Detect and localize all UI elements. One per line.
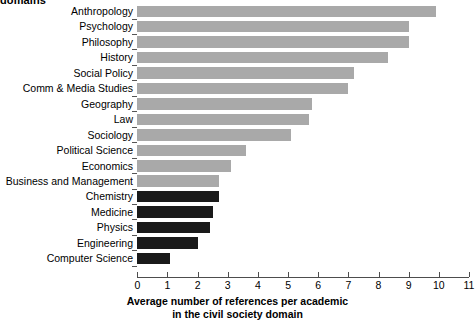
category-label: Business and Management [6, 174, 137, 189]
x-axis-tick-label: 11 [457, 279, 475, 291]
x-axis-title-line2: in the civil society domain [0, 308, 475, 321]
bar-row: Engineering [0, 236, 475, 251]
bar [137, 237, 197, 249]
bar-row: Computer Science [0, 251, 475, 266]
category-label: Geography [81, 97, 137, 112]
bar-row: Physics [0, 220, 475, 235]
category-label: Law [114, 112, 137, 127]
x-axis-tick [137, 272, 138, 277]
bar [137, 114, 309, 126]
x-axis-tick-label: 1 [155, 279, 179, 291]
bar [137, 98, 312, 110]
bar-row: Social Policy [0, 66, 475, 81]
x-axis-tick-label: 6 [306, 279, 330, 291]
bar-row: Chemistry [0, 189, 475, 204]
category-label: Psychology [79, 19, 137, 34]
bar [137, 67, 354, 79]
x-axis-line [137, 277, 469, 278]
bar [137, 52, 387, 64]
category-label: Engineering [77, 236, 137, 251]
bar [137, 129, 291, 141]
bar-row: Psychology [0, 19, 475, 34]
category-label: Social Policy [73, 66, 137, 81]
x-axis-tick-label: 5 [276, 279, 300, 291]
y-axis-tick [132, 266, 137, 267]
x-axis-tick-label: 4 [246, 279, 270, 291]
x-axis-tick [228, 272, 229, 277]
x-axis-tick [318, 272, 319, 277]
category-label: Computer Science [47, 251, 137, 266]
x-axis-title: Average number of references per academi… [0, 295, 475, 320]
category-label: Economics [82, 159, 137, 174]
x-axis-tick [288, 272, 289, 277]
bar [137, 206, 212, 218]
bar-row: Geography [0, 97, 475, 112]
bar-row: Anthropology [0, 4, 475, 19]
bar [137, 21, 408, 33]
x-axis-tick-label: 0 [125, 279, 149, 291]
x-axis-tick [167, 272, 168, 277]
bar-chart: domains AnthropologyPsychologyPhilosophy… [0, 0, 475, 322]
bar-row: Philosophy [0, 35, 475, 50]
x-axis-tick [469, 272, 470, 277]
category-label: Chemistry [86, 189, 137, 204]
bar [137, 191, 218, 203]
bar-row: Comm & Media Studies [0, 81, 475, 96]
category-label: Physics [97, 220, 137, 235]
x-axis-tick-label: 2 [186, 279, 210, 291]
bar [137, 175, 218, 187]
bar-row: Economics [0, 159, 475, 174]
bar [137, 160, 230, 172]
bar [137, 145, 246, 157]
category-label: Sociology [87, 128, 137, 143]
bar [137, 253, 170, 265]
bar-row: Business and Management [0, 174, 475, 189]
x-axis-tick-label: 10 [427, 279, 451, 291]
category-label: History [100, 50, 137, 65]
category-label: Medicine [91, 205, 137, 220]
x-axis-tick [409, 272, 410, 277]
x-axis-tick [439, 272, 440, 277]
bar-row: History [0, 50, 475, 65]
x-axis-tick-label: 3 [216, 279, 240, 291]
x-axis-tick-label: 9 [397, 279, 421, 291]
x-axis-tick [258, 272, 259, 277]
bar [137, 36, 408, 48]
bar-row: Medicine [0, 205, 475, 220]
category-label: Comm & Media Studies [23, 81, 137, 96]
x-axis-tick-label: 7 [336, 279, 360, 291]
x-axis-tick [348, 272, 349, 277]
bar [137, 6, 435, 18]
bar [137, 222, 209, 234]
category-label: Philosophy [82, 35, 137, 50]
bar-row: Political Science [0, 143, 475, 158]
plot-area: AnthropologyPsychologyPhilosophyHistoryS… [0, 0, 475, 322]
bar [137, 83, 348, 95]
x-axis-title-line1: Average number of references per academi… [127, 295, 348, 307]
x-axis-tick [379, 272, 380, 277]
x-axis-tick-label: 8 [367, 279, 391, 291]
bar-row: Law [0, 112, 475, 127]
category-label: Political Science [57, 143, 137, 158]
bar-row: Sociology [0, 128, 475, 143]
category-label: Anthropology [71, 4, 137, 19]
x-axis-tick [198, 272, 199, 277]
